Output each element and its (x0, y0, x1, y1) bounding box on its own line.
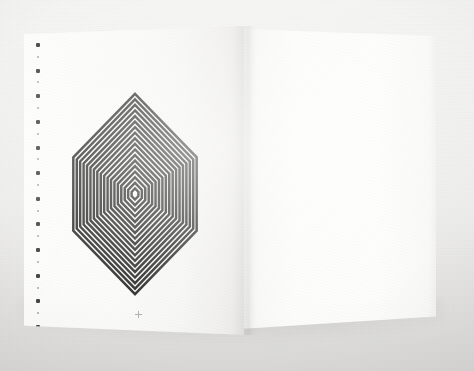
perforation-hole-large (36, 69, 40, 73)
perforation-hole-small (37, 235, 39, 237)
hexagon-rings (60, 88, 210, 300)
perforation-strip (35, 43, 45, 325)
perforation-hole-large (36, 94, 40, 98)
perforation-hole-small (37, 133, 39, 135)
perforation-hole-large (36, 197, 40, 201)
perforation-hole-small (37, 107, 39, 109)
perforation-hole-large (36, 248, 40, 252)
left-page (24, 26, 244, 335)
perforation-hole-large (36, 171, 40, 175)
registration-mark-left (135, 311, 142, 318)
perforation-hole-small (37, 158, 39, 160)
perforation-hole-small (37, 287, 39, 289)
perforation-hole-large (36, 274, 40, 278)
perforation-hole-large (36, 222, 40, 226)
perforation-hole-small (37, 312, 39, 314)
open-book-spread (24, 26, 436, 335)
right-page-texture (244, 26, 436, 335)
perforation-hole-small (37, 81, 39, 83)
perforation-hole-small (37, 210, 39, 212)
concentric-hexagon-artwork (60, 88, 210, 300)
perforation-hole-large (36, 325, 40, 329)
perforation-hole-small (37, 56, 39, 58)
perforation-hole-large (36, 43, 40, 47)
perforation-hole-small (37, 184, 39, 186)
perforation-hole-large (36, 146, 40, 150)
perforation-hole-small (37, 261, 39, 263)
perforation-hole-large (36, 120, 40, 124)
right-page (244, 26, 436, 335)
perforation-hole-large (36, 299, 40, 303)
photo-canvas (0, 0, 474, 371)
